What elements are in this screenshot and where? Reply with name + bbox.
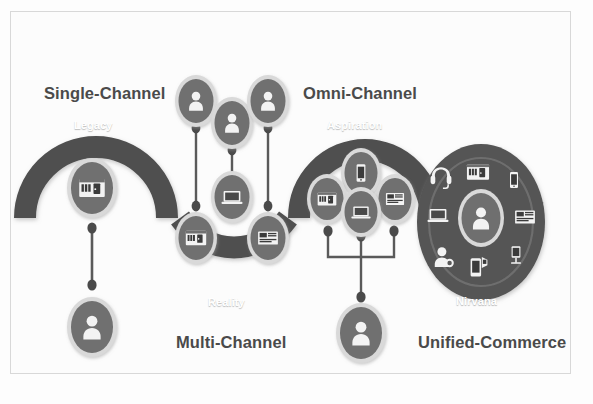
node-omni-store[interactable] — [307, 174, 347, 224]
nirvana-mobile-scan-icon[interactable] — [471, 257, 488, 277]
node-multi-customer-3[interactable] — [247, 75, 289, 127]
nirvana-mobile-icon[interactable] — [510, 172, 518, 188]
stage-title-multi-channel: Multi-Channel — [176, 333, 286, 352]
inner-label-reality: Reality — [208, 296, 245, 308]
node-omni-customer[interactable] — [336, 303, 386, 363]
connector-legacy — [87, 222, 96, 290]
nirvana-laptop-icon[interactable] — [428, 209, 449, 222]
node-omni-laptop[interactable] — [341, 187, 381, 237]
connector-multi-right — [264, 123, 273, 212]
inner-label-nirvana: Nirvana — [456, 295, 497, 307]
connector-multi-left — [192, 123, 201, 212]
nirvana-catalog-icon[interactable] — [515, 210, 535, 223]
node-multi-laptop[interactable] — [211, 171, 253, 223]
node-legacy-store[interactable] — [67, 158, 117, 218]
node-multi-catalog[interactable] — [247, 212, 289, 264]
node-multi-customer-1[interactable] — [175, 75, 217, 127]
stage-title-single-channel: Single-Channel — [44, 84, 166, 103]
stage-title-omni-channel: Omni-Channel — [303, 84, 417, 103]
node-omni-catalog[interactable] — [375, 174, 415, 224]
inner-label-legacy: Legacy — [74, 119, 113, 131]
inner-label-aspiration: Aspiration — [327, 119, 382, 131]
diagram-canvas: Single-Channel Omni-Channel Multi-Channe… — [0, 0, 593, 404]
node-multi-customer-2[interactable] — [211, 97, 253, 149]
node-nirvana-customer[interactable] — [458, 189, 504, 247]
stage-title-unified-commerce: Unified-Commerce — [418, 333, 566, 352]
node-multi-store[interactable] — [175, 212, 217, 264]
nirvana-headset-icon[interactable] — [431, 167, 452, 188]
nirvana-store-icon[interactable] — [467, 164, 489, 180]
nirvana-support-agent-icon[interactable] — [435, 247, 454, 267]
nirvana-kiosk-icon[interactable] — [511, 246, 521, 264]
node-legacy-customer[interactable] — [67, 297, 117, 357]
